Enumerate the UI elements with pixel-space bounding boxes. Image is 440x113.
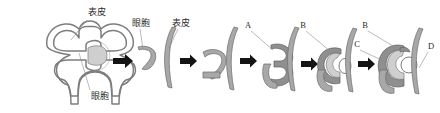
label-b-leader-line-p6 [368, 31, 403, 52]
epidermis-arc-p5 [346, 28, 357, 92]
epidermis-arc-p2 [165, 27, 176, 88]
panel-2-vesicle-approaching: 眼胞 表皮 [132, 17, 191, 88]
optic-vesicle-wall-p2 [138, 46, 156, 69]
figure-canvas: 表皮 眼胞 眼胞 表皮 [0, 0, 440, 113]
panel-1-neural-tube: 表皮 眼胞 [47, 6, 136, 104]
panel-3-vesicle-contacting [203, 27, 238, 90]
label-b-leader-line-p5 [306, 31, 331, 52]
label-d: D [428, 41, 434, 51]
panel-4-optic-cup-invagination: A [245, 20, 299, 91]
label-d-leader-line [419, 52, 428, 68]
label-a-leader-line [251, 31, 273, 50]
epidermis-arc-p4 [288, 27, 299, 91]
arrow-panel2-to-panel3 [180, 55, 197, 68]
optic-cup-lower-lobe-p4 [263, 64, 277, 88]
label-c: C [354, 39, 360, 49]
label-epidermis-panel1: 表皮 [88, 6, 107, 17]
optic-vesicle-bulge [88, 46, 107, 66]
epidermis-arc-p6 [412, 28, 423, 94]
optic-vesicle-lower-fold-p3 [203, 72, 220, 78]
eye-development-figure: 表皮 眼胞 眼胞 表皮 [0, 0, 440, 113]
label-a: A [245, 20, 252, 30]
label-optic-vesicle-panel1: 眼胞 [91, 90, 110, 101]
arrow-panel3-to-panel4 [240, 55, 257, 68]
panel-5-lens-vesicle-forming: B [300, 20, 357, 92]
label-b-panel6: B [362, 20, 368, 30]
label-b-panel5: B [300, 20, 306, 30]
arrow-panel4-to-panel5 [301, 58, 318, 71]
arrow-panel5-to-panel6 [358, 58, 375, 71]
inner-retina-layer-p5 [326, 53, 340, 77]
label-epidermis-panel2: 表皮 [172, 17, 191, 28]
label-optic-vesicle-panel2: 眼胞 [132, 17, 151, 28]
panel-6-mature-optic-cup: B C D [354, 20, 434, 94]
epidermis-arc-p3 [227, 27, 238, 90]
